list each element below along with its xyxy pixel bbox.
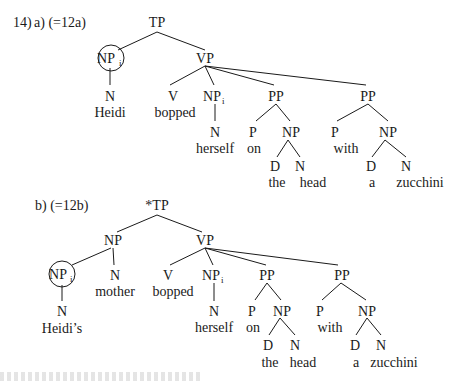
node-np-object: NP bbox=[203, 89, 221, 104]
node-n: N bbox=[105, 89, 115, 104]
index-subscript: i bbox=[119, 58, 122, 68]
node-p: P bbox=[331, 125, 339, 140]
node-np: NP bbox=[379, 125, 397, 140]
node-vp: VP bbox=[196, 233, 214, 248]
node-n: N bbox=[210, 125, 220, 140]
node-np: NP bbox=[282, 125, 300, 140]
node-tp-ungrammatical: *TP bbox=[145, 198, 169, 213]
index-subscript: i bbox=[221, 275, 224, 285]
node-n: N bbox=[57, 304, 67, 319]
word-herself: herself bbox=[196, 141, 234, 156]
word-head: head bbox=[290, 355, 316, 370]
word-a: a bbox=[353, 355, 360, 370]
node-v: V bbox=[168, 89, 178, 104]
node-n: N bbox=[401, 159, 411, 174]
node-n: N bbox=[209, 304, 219, 319]
word-the: the bbox=[261, 355, 278, 370]
node-n: N bbox=[376, 338, 386, 353]
node-p: P bbox=[248, 304, 256, 319]
word-mother: mother bbox=[95, 284, 135, 299]
node-pp: PP bbox=[268, 89, 284, 104]
word-the: the bbox=[268, 175, 285, 190]
node-vp: VP bbox=[196, 51, 214, 66]
node-pp: PP bbox=[334, 268, 350, 283]
word-a: a bbox=[369, 175, 376, 190]
node-tp: TP bbox=[149, 15, 166, 30]
word-on: on bbox=[247, 141, 261, 156]
node-np: NP bbox=[273, 304, 291, 319]
node-np-subject: NP bbox=[97, 51, 115, 66]
cropped-text-line bbox=[0, 372, 200, 381]
word-bopped: bopped bbox=[152, 284, 193, 299]
node-p: P bbox=[249, 125, 257, 140]
word-heidi: Heidi bbox=[94, 105, 125, 120]
word-zucchini: zucchini bbox=[396, 175, 444, 190]
node-n: N bbox=[295, 159, 305, 174]
node-np-possessor: NP bbox=[49, 267, 67, 282]
node-pp: PP bbox=[360, 89, 376, 104]
syntax-tree-diagram: 14) a) (=12a) TP NP i N Heidi V bbox=[0, 0, 452, 381]
tree-b-label: b) (=12b) bbox=[35, 198, 89, 214]
example-number: 14) bbox=[13, 15, 32, 31]
word-herself: herself bbox=[195, 320, 233, 335]
index-subscript: i bbox=[222, 96, 225, 106]
word-with: with bbox=[334, 141, 359, 156]
node-d: D bbox=[263, 338, 273, 353]
word-bopped: bopped bbox=[154, 105, 195, 120]
node-pp: PP bbox=[259, 268, 275, 283]
node-n: N bbox=[290, 338, 300, 353]
node-np: NP bbox=[358, 304, 376, 319]
node-d: D bbox=[366, 159, 376, 174]
tree-a-label: a) (=12a) bbox=[34, 15, 86, 31]
node-d: D bbox=[270, 159, 280, 174]
tree-a: 14) a) (=12a) TP NP i N Heidi V bbox=[13, 15, 444, 190]
index-subscript: i bbox=[70, 274, 73, 284]
node-p: P bbox=[316, 304, 324, 319]
node-d: D bbox=[350, 338, 360, 353]
node-v: V bbox=[163, 268, 173, 283]
word-with: with bbox=[318, 320, 343, 335]
node-n: N bbox=[110, 268, 120, 283]
word-zucchini: zucchini bbox=[370, 355, 418, 370]
word-heidis: Heidi’s bbox=[42, 321, 82, 336]
word-head: head bbox=[300, 175, 326, 190]
tree-b: b) (=12b) *TP NP NP i N Heidi’s bbox=[35, 198, 418, 370]
node-np-object: NP bbox=[202, 268, 220, 283]
node-np-subject: NP bbox=[104, 233, 122, 248]
word-on: on bbox=[246, 320, 260, 335]
